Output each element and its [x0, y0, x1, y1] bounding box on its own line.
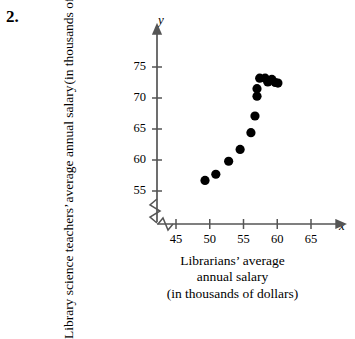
- y-tick-label-70: 70: [120, 90, 146, 105]
- data-point: [224, 157, 233, 166]
- x-tick-label-60: 60: [264, 232, 290, 247]
- y-tick-label-60: 60: [120, 152, 146, 167]
- y-tick-label-75: 75: [120, 59, 146, 74]
- y-tick-label-55: 55: [120, 183, 146, 198]
- data-points: [200, 74, 282, 185]
- data-point: [246, 128, 255, 137]
- y-tick-label-65: 65: [120, 121, 146, 136]
- x-tick-label-65: 65: [298, 232, 324, 247]
- data-point: [211, 170, 220, 179]
- x-tick-label-55: 55: [231, 232, 257, 247]
- x-tick-label-50: 50: [197, 232, 223, 247]
- axes: [150, 33, 337, 230]
- data-point: [200, 176, 209, 185]
- data-point: [252, 92, 261, 101]
- data-point: [273, 79, 282, 88]
- data-point: [250, 111, 259, 120]
- data-point: [236, 145, 245, 154]
- x-tick-label-45: 45: [163, 232, 189, 247]
- axis-ticks: [152, 67, 311, 229]
